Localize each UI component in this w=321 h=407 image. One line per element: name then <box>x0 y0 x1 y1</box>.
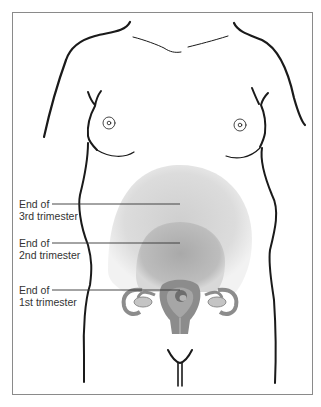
label-3rd-line1: End of <box>19 198 78 210</box>
label-3rd-trimester: End of 3rd trimester <box>19 198 78 222</box>
label-2nd-line2: 2nd trimester <box>19 249 80 261</box>
uterus <box>124 280 237 334</box>
label-1st-line1: End of <box>19 284 77 296</box>
label-2nd-line1: End of <box>19 237 80 249</box>
label-2nd-trimester: End of 2nd trimester <box>19 237 80 261</box>
label-1st-line2: 1st trimester <box>19 296 77 308</box>
label-3rd-line2: 3rd trimester <box>19 210 78 222</box>
label-1st-trimester: End of 1st trimester <box>19 284 77 308</box>
